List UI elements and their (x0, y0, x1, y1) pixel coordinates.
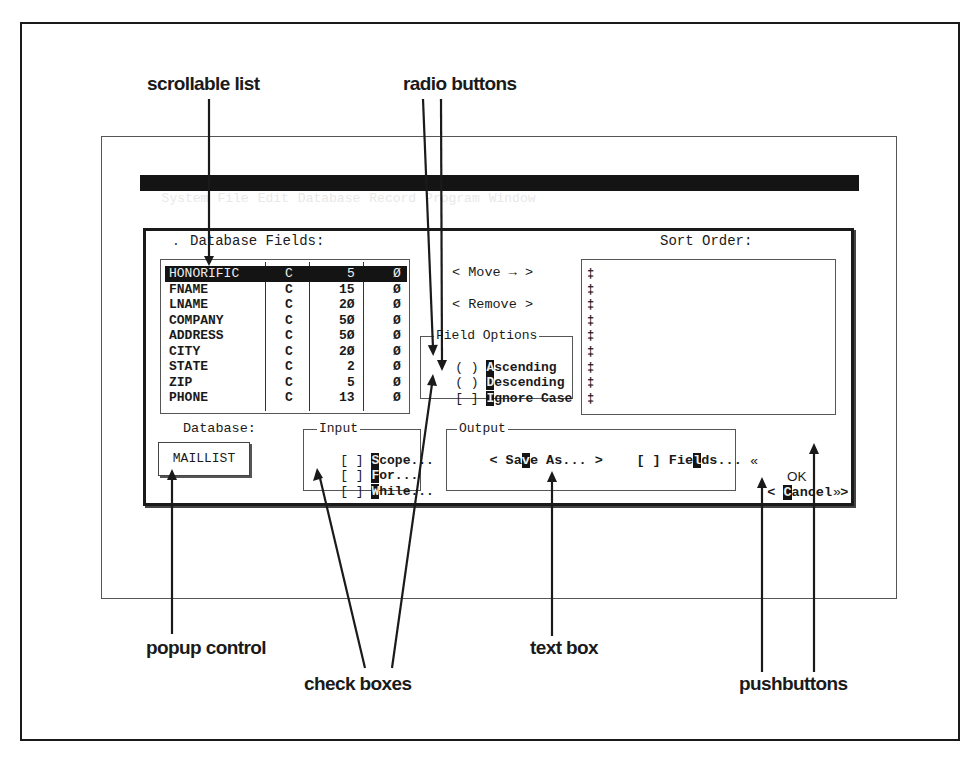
callout-lines (0, 0, 979, 757)
